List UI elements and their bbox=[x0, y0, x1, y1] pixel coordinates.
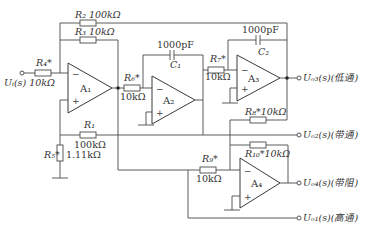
output-terminal-uo2 bbox=[297, 133, 301, 137]
label-c1-value: 1000pF bbox=[157, 39, 194, 50]
output-terminal-uo4 bbox=[297, 181, 301, 185]
capacitor-c2 bbox=[256, 35, 260, 45]
label-c2-name: C₂ bbox=[258, 46, 269, 57]
label-r10: R₁₀*10kΩ bbox=[244, 148, 290, 159]
label-r6-value: 10kΩ bbox=[120, 91, 146, 102]
label-r6-name: R₆* bbox=[123, 72, 140, 83]
label-r7-name: R₇* bbox=[209, 53, 226, 64]
junction-a1-out bbox=[116, 86, 120, 90]
opamp-a2: − + A₂ bbox=[152, 76, 195, 124]
label-r2: R₂ 100kΩ bbox=[74, 9, 121, 20]
label-c2-value: 1000pF bbox=[242, 24, 279, 35]
svg-text:+: + bbox=[244, 192, 252, 202]
svg-text:A₂: A₂ bbox=[162, 95, 174, 106]
label-r8: R₈*10kΩ bbox=[244, 106, 287, 117]
label-r7-value: 10kΩ bbox=[205, 71, 231, 82]
svg-text:+: + bbox=[241, 84, 249, 94]
resistor-r8 bbox=[250, 117, 266, 123]
junction-a3-out bbox=[285, 76, 289, 80]
label-c1-name: C₁ bbox=[170, 59, 181, 70]
svg-text:A₄: A₄ bbox=[250, 178, 262, 189]
label-output-uo3: Uₒ₃(s)(低通) bbox=[303, 72, 358, 83]
circuit-diagram: − + A₁ − + A₂ − + A₃ − + A₄ R₂ 100kΩ R₃ … bbox=[0, 0, 365, 233]
label-r1-name: R₁ bbox=[83, 119, 95, 130]
label-r9-value: 10kΩ bbox=[196, 173, 222, 184]
output-terminal-uo1 bbox=[297, 216, 301, 220]
svg-text:−: − bbox=[72, 69, 80, 79]
svg-text:A₃: A₃ bbox=[247, 73, 259, 84]
resistor-r4 bbox=[35, 70, 51, 76]
label-output-uo2: Uₒ₂(s)(带通) bbox=[303, 129, 358, 140]
resistor-r1 bbox=[80, 132, 96, 138]
svg-text:+: + bbox=[156, 108, 164, 118]
label-r5-name: R₅* bbox=[43, 149, 60, 160]
label-r9-name: R₉* bbox=[201, 153, 218, 164]
output-terminal-uo3 bbox=[297, 76, 301, 80]
svg-text:−: − bbox=[244, 166, 252, 176]
svg-text:A₁: A₁ bbox=[79, 83, 91, 94]
resistor-r3 bbox=[80, 37, 96, 43]
label-output-uo1: Uₒ₁(s)(高通) bbox=[303, 212, 358, 223]
svg-text:+: + bbox=[72, 96, 80, 106]
label-output-uo4: Uₒ₄(s)(带阻) bbox=[303, 177, 358, 188]
svg-text:−: − bbox=[156, 84, 164, 94]
opamp-a3: − + A₃ bbox=[237, 55, 280, 101]
label-r3: R₃ 10kΩ bbox=[74, 26, 115, 37]
label-r4-name: R₄* bbox=[35, 57, 52, 68]
label-r4-value: Uᵢ(s) 10kΩ bbox=[4, 77, 55, 88]
label-r5-value: 1.11kΩ bbox=[66, 149, 101, 160]
opamp-a4: − + A₄ bbox=[240, 158, 280, 208]
opamp-a1: − + A₁ bbox=[68, 63, 112, 113]
input-terminal bbox=[20, 71, 24, 75]
